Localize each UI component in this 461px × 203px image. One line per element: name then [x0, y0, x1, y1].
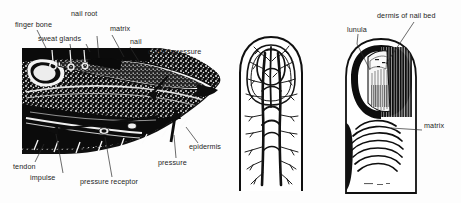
label-impulse: impulse [30, 174, 55, 182]
label-pressure-receptor: pressure receptor [80, 178, 138, 186]
label-lunula: lunula [347, 26, 367, 34]
label-dermis-of-nail-bed: dermis of nail bed [377, 12, 436, 20]
label-sweat-glands: sweat glands [38, 35, 81, 43]
vascular-fingertip-drawing [232, 33, 310, 193]
label-matrix: matrix [110, 25, 130, 33]
label-counterpressure: counterpressure [148, 48, 201, 56]
label-pressure: pressure [158, 159, 187, 167]
label-nail-root: nail root [71, 10, 97, 18]
label-epidermis: epidermis [189, 143, 221, 151]
label-matrix-right: matrix [424, 122, 444, 130]
label-tendon: tendon [13, 163, 36, 171]
label-finger-bone: finger bone [15, 21, 52, 29]
anatomy-figure: finger bone sweat glands nail root matri… [0, 0, 461, 203]
vascular-fingertip-panel [232, 33, 310, 193]
label-nail: nail [130, 38, 142, 46]
